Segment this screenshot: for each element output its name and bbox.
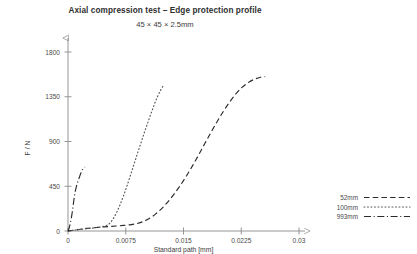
x-tick-label-00225: 0.0225 — [231, 237, 252, 244]
y-tick-label-0: 0 — [56, 228, 60, 235]
y-axis-label: F / N — [24, 141, 31, 156]
y-axis-tick-labels: 0 450 900 1350 1800 — [45, 49, 60, 235]
legend-label-1: 100mm — [337, 204, 358, 211]
legend-label-0: 52mm — [340, 194, 358, 201]
x-tick-label-003: 0.03 — [293, 237, 306, 244]
y-tick-label-450: 450 — [49, 183, 60, 190]
y-tick-label-900: 900 — [49, 138, 60, 145]
legend-label-2: 993mm — [337, 213, 358, 220]
chart-container: Axial compression test – Edge protection… — [0, 0, 417, 254]
series-line-993mm — [68, 167, 85, 231]
y-tick-label-1800: 1800 — [45, 49, 60, 56]
series-group — [68, 77, 265, 231]
legend: 52mm 100mm 993mm — [337, 194, 410, 220]
x-tick-label-0: 0 — [66, 237, 70, 244]
x-axis-tick-labels: 0 0.0075 0.015 0.0225 0.03 — [66, 237, 306, 244]
axes-group — [68, 38, 305, 231]
x-tick-label-00075: 0.0075 — [116, 237, 137, 244]
x-tick-label-0015: 0.015 — [175, 237, 192, 244]
y-tick-label-1350: 1350 — [45, 93, 60, 100]
chart-plot-svg: 0 450 900 1350 1800 0 0.0075 0.015 0.022… — [0, 0, 417, 254]
series-line-100mm — [68, 87, 163, 231]
x-axis-label: Standard path [mm] — [154, 246, 214, 254]
series-line-52mm — [68, 77, 265, 231]
